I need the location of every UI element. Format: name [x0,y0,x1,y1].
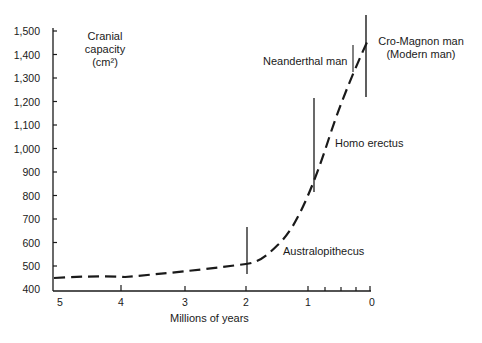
annotation-australopithecus: Australopithecus [283,245,364,258]
y-axis-title-line-2: capacity [75,43,135,56]
y-tick-label: 500 [0,260,40,272]
x-tick-label: 3 [175,296,195,308]
y-tick-label: 900 [0,166,40,178]
annotation-cro-magnon-line-2: (Modern man) [374,48,468,61]
y-tick-label: 1,500 [0,25,40,37]
x-axis-ticks [121,285,370,291]
x-axis-title: Millions of years [170,312,249,325]
y-tick-label: 1,300 [0,72,40,84]
x-tick-label: 0 [362,296,382,308]
y-tick-label: 1,100 [0,119,40,131]
y-tick-label: 800 [0,190,40,202]
annotation-cro-magnon-line-1: Cro-Magnon man [374,35,468,48]
y-tick-label: 400 [0,283,40,295]
annotation-homo-erectus: Homo erectus [335,137,403,150]
x-tick-label: 4 [111,296,131,308]
y-tick-label: 600 [0,237,40,249]
y-tick-label: 1,000 [0,143,40,155]
annotation-neanderthal-man: Neanderthal man [263,55,347,68]
y-tick-label: 700 [0,213,40,225]
x-tick-label: 2 [236,296,256,308]
y-tick-label: 1,400 [0,49,40,61]
x-tick-label: 5 [50,296,70,308]
y-tick-label: 1,200 [0,96,40,108]
x-tick-label: 1 [298,296,318,308]
y-axis-title-line-3: (cm²) [75,56,135,69]
y-axis-title-line-1: Cranial [75,30,135,43]
cranial-capacity-curve [54,40,368,278]
